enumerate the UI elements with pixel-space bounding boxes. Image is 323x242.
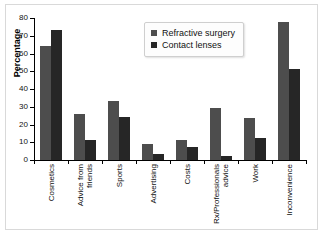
y-tick-label: 40	[12, 85, 28, 93]
x-tick-mark	[136, 160, 137, 164]
x-label-wrap: Rx/Professionalsadvice	[221, 164, 222, 165]
x-axis-label: Advice fromfriends	[76, 164, 94, 238]
x-label-wrap: Cosmetics	[51, 164, 52, 165]
y-tick-label: 30	[12, 103, 28, 111]
bar	[108, 101, 119, 160]
x-axis-label: Cosmetics	[47, 164, 56, 238]
y-tick-label: 70	[12, 32, 28, 40]
x-axis-label-line: Inconvenience	[285, 164, 294, 238]
bar-group	[108, 18, 130, 160]
y-tick-label: 50	[12, 67, 28, 75]
bar	[176, 140, 187, 160]
legend-item-0: Refractive surgery	[151, 27, 235, 39]
x-label-wrap: Inconvenience	[289, 164, 290, 165]
x-axis-label-line: Cosmetics	[47, 164, 56, 238]
x-tick-mark	[204, 160, 205, 164]
bar	[119, 117, 130, 160]
chart-legend: Refractive surgery Contact lenses	[144, 22, 244, 57]
bar	[153, 154, 164, 160]
x-axis-label-line: Advertising	[149, 164, 158, 238]
y-tick-label: 80	[12, 14, 28, 22]
x-axis-label-line: Advice from	[76, 164, 85, 238]
x-tick-mark	[102, 160, 103, 164]
x-axis-label: Rx/Professionalsadvice	[212, 164, 230, 238]
bar-group	[40, 18, 62, 160]
chart-figure: Percentage 01020304050607080 CosmeticsAd…	[0, 0, 323, 242]
bar-group	[278, 18, 300, 160]
x-axis-label-line: Costs	[183, 164, 192, 238]
x-label-wrap: Advice fromfriends	[85, 164, 86, 165]
x-label-wrap: Costs	[187, 164, 188, 165]
x-tick-mark	[34, 160, 35, 164]
bar	[221, 156, 232, 160]
x-tick-mark	[170, 160, 171, 164]
bar	[74, 114, 85, 160]
y-tick-label: 10	[12, 138, 28, 146]
x-tick-mark	[306, 160, 307, 164]
bar	[278, 22, 289, 160]
legend-label: Contact lenses	[162, 41, 222, 50]
x-tick-mark	[272, 160, 273, 164]
y-tick-label: 20	[12, 121, 28, 129]
x-axis-label: Inconvenience	[285, 164, 294, 238]
legend-swatch-icon	[151, 30, 157, 36]
legend-swatch-icon	[151, 42, 157, 48]
bar	[210, 108, 221, 160]
x-label-wrap: Sports	[119, 164, 120, 165]
bar	[51, 30, 62, 160]
bar	[142, 144, 153, 160]
bar	[85, 140, 96, 160]
x-label-wrap: Advertising	[153, 164, 154, 165]
x-axis-label: Work	[251, 164, 260, 238]
bar	[40, 46, 51, 160]
bar	[244, 118, 255, 160]
bar-group	[74, 18, 96, 160]
x-axis-label-line: friends	[85, 164, 94, 238]
x-axis-label-line: advice	[221, 164, 230, 238]
bar	[255, 138, 266, 160]
bar	[289, 69, 300, 160]
bar-group	[244, 18, 266, 160]
y-tick-label: 0	[12, 156, 28, 164]
legend-label: Refractive surgery	[162, 29, 235, 38]
x-tick-mark	[238, 160, 239, 164]
legend-item-1: Contact lenses	[151, 39, 235, 51]
x-axis-label: Costs	[183, 164, 192, 238]
x-axis-label-line: Sports	[115, 164, 124, 238]
y-tick-label: 60	[12, 50, 28, 58]
x-axis-label: Sports	[115, 164, 124, 238]
x-tick-mark	[68, 160, 69, 164]
x-label-wrap: Work	[255, 164, 256, 165]
bar	[187, 147, 198, 160]
x-axis-label: Advertising	[149, 164, 158, 238]
x-axis-label-line: Work	[251, 164, 260, 238]
x-axis-label-line: Rx/Professionals	[212, 164, 221, 238]
